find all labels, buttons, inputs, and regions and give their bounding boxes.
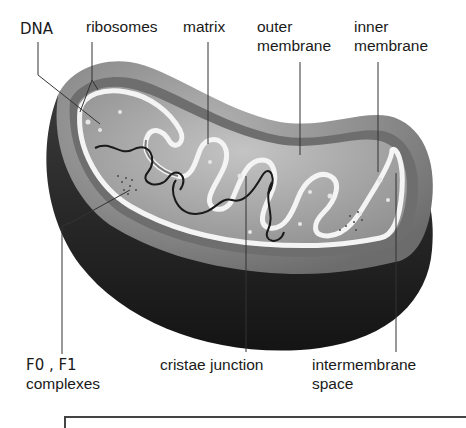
label-intermembrane-line2: space bbox=[312, 375, 353, 393]
label-f0f1-line2: complexes bbox=[26, 375, 100, 393]
label-inner-membrane-line2: membrane bbox=[354, 37, 428, 55]
label-intermembrane-line1: intermembrane bbox=[312, 356, 416, 374]
label-matrix: matrix bbox=[183, 18, 225, 36]
bottom-frame bbox=[64, 416, 466, 428]
label-f0f1-line1: F0 , F1 bbox=[26, 356, 77, 374]
label-outer-membrane-line1: outer bbox=[257, 18, 292, 36]
label-outer-membrane-line2: membrane bbox=[257, 37, 331, 55]
label-ribosomes: ribosomes bbox=[86, 18, 158, 36]
label-dna: DNA bbox=[20, 20, 53, 38]
label-cristae-junction: cristae junction bbox=[160, 356, 263, 374]
label-inner-membrane-line1: inner bbox=[354, 18, 388, 36]
